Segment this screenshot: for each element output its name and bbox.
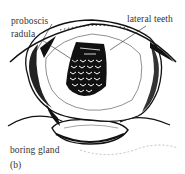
label-lateral-teeth: lateral teeth — [127, 14, 173, 24]
label-proboscis: proboscis — [11, 16, 48, 26]
label-boring-gland: boring gland — [10, 145, 59, 155]
boring-gland — [52, 120, 128, 144]
panel-label: (b) — [10, 160, 21, 170]
label-radula: radula — [11, 29, 35, 39]
